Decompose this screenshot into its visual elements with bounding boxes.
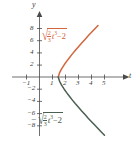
x-tick-label-3: 3 [76,80,80,87]
lower-curve-label: −√23t3−2 [31,112,63,128]
x-tick-label-2: 2 [63,80,67,87]
lower-label-radicand: 23t3−2 [43,112,63,128]
upper-label-radicand: 23t3−2 [47,28,67,44]
upper-curve-label: √23t3−2 [40,28,67,44]
plot-area [0,0,137,141]
lower-label-radical: √23t3−2 [36,112,63,128]
lower-label-fraction: 23 [43,114,47,128]
upper-label-denominator: 3 [47,37,51,43]
x-tick-label-1: 1 [50,80,54,87]
y-tick-label-8: 8 [30,25,34,32]
upper-label-constant: 2 [62,31,67,41]
x-tick-label-5: 5 [102,80,106,87]
lower-label-numerator: 2 [43,114,47,121]
y-axis-arrowhead [37,11,43,17]
lower-label-denominator: 3 [43,121,47,127]
chart-figure: y t −1 1 2 3 4 5 8 6 4 2 −2 −4 −6 −8 √23… [0,0,137,141]
upper-label-fraction: 23 [47,30,51,44]
lower-label-constant: 2 [58,115,63,125]
x-tick-label-4: 4 [89,80,93,87]
x-axis-label: t [129,72,131,80]
y-tick-label-neg2: −2 [27,85,35,92]
y-tick-label-6: 6 [30,37,34,44]
y-axis-label: y [32,1,36,9]
y-tick-label-neg4: −4 [27,97,35,104]
upper-label-radical: √23t3−2 [40,28,67,44]
y-tick-label-4: 4 [30,49,34,56]
y-tick-label-2: 2 [30,61,34,68]
upper-label-numerator: 2 [47,30,51,37]
